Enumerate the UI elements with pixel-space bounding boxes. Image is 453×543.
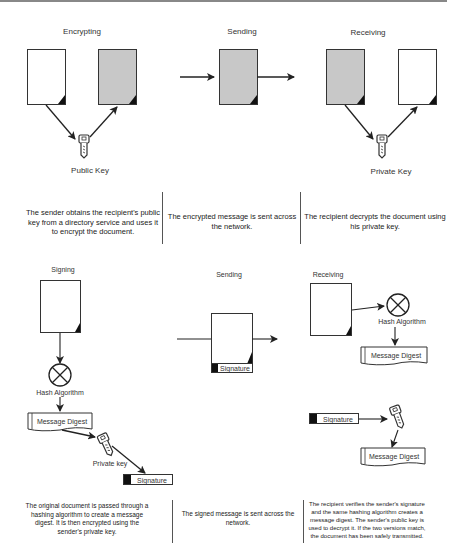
description-sending-signed: The signed message is sent across the ne…: [175, 510, 301, 527]
svg-text:Signature: Signature: [137, 477, 167, 485]
signature-box: Signature: [124, 475, 173, 485]
divider: [300, 192, 301, 244]
stage-title-sending-2: Sending: [216, 271, 242, 279]
description-signing: The original document is passed through …: [22, 502, 152, 536]
stage-title-receiving: Receiving: [350, 28, 385, 37]
svg-text:Signature: Signature: [323, 416, 353, 424]
description-encrypting: The sender obtains the recipient's publi…: [26, 208, 160, 237]
private-key-icon: [377, 135, 387, 158]
public-key-icon: [79, 135, 89, 158]
private-key-label-2: Private key: [93, 460, 128, 468]
decrypted-message-digest-box: Message Digest: [361, 448, 425, 466]
receiver-hash-algorithm-icon: [387, 294, 409, 316]
stage-title-sending: Sending: [227, 27, 256, 36]
hash-algorithm-label: Hash Algorithm: [36, 389, 84, 397]
original-document: [41, 281, 81, 333]
public-key-verify-icon: [389, 405, 406, 430]
stage-title-signing: Signing: [51, 266, 74, 274]
stage-title-receiving-2: Receiving: [313, 271, 344, 279]
encrypted-document: [99, 50, 137, 105]
divider: [172, 500, 173, 543]
decrypted-document: [399, 50, 437, 105]
stage-title-encrypting: Encrypting: [63, 27, 101, 36]
svg-text:Message Digest: Message Digest: [369, 453, 419, 461]
signing-private-key-icon: [97, 432, 116, 457]
receiver-message-digest-box: Message Digest: [361, 347, 427, 365]
description-sending: The encrypted message is sent across the…: [166, 212, 298, 231]
received-signature-box: Signature: [310, 414, 359, 424]
received-encrypted-document: [327, 50, 365, 105]
description-receiving-signed: The recipient verifies the sender's sign…: [304, 500, 430, 540]
crypto-diagram: Encrypting Sending Receiving Public Key …: [0, 0, 453, 543]
public-key-label: Public Key: [71, 166, 109, 175]
hash-algorithm-icon: [49, 364, 71, 386]
plain-document: [28, 50, 66, 105]
signed-document: Signature: [212, 314, 253, 373]
sent-encrypted-document: [220, 50, 258, 105]
message-digest-box: Message Digest: [28, 413, 92, 431]
private-key-label: Private Key: [371, 167, 412, 176]
svg-text:Message Digest: Message Digest: [37, 418, 87, 426]
signature-attached-label: Signature: [220, 365, 250, 373]
received-document: [311, 284, 352, 336]
receiver-hash-algorithm-label: Hash Algorithm: [378, 318, 426, 326]
divider: [162, 192, 163, 244]
svg-text:Message Digest: Message Digest: [371, 352, 421, 360]
description-receiving: The recipient decrypts the document usin…: [302, 212, 448, 231]
